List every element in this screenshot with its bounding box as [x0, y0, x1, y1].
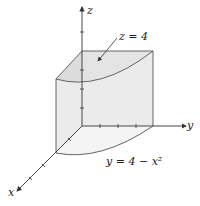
y-axis-label: y	[187, 119, 193, 132]
z-axis-label: z	[87, 4, 93, 17]
base-curve-label: y = 4 − x²	[106, 155, 162, 168]
top-surface-label: z = 4	[119, 30, 148, 43]
x-axis	[17, 126, 82, 191]
region-diagram: z y x z = 4 y = 4 − x²	[0, 0, 200, 206]
x-axis-label: x	[8, 186, 14, 199]
diagram-graphic	[0, 0, 200, 206]
